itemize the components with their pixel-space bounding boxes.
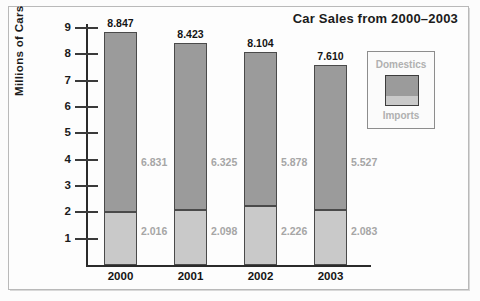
bar-total-label-2002: 8.104 [231, 37, 290, 49]
x-category-label-2002: 2002 [234, 270, 287, 282]
y-tick-5 [75, 132, 98, 134]
legend-swatch-domestics [386, 76, 418, 97]
y-tick-label-5: 5 [55, 127, 71, 139]
y-tick-label-9: 9 [55, 22, 71, 34]
legend-label-domestics: Domestics [368, 59, 434, 70]
x-category-label-2001: 2001 [164, 270, 217, 282]
y-tick-label-7: 7 [55, 75, 71, 87]
plot-area: 123456789 8.8476.8312.01620008.4236.3252… [0, 0, 480, 301]
segment-value-imports-2001: 2.098 [211, 225, 237, 237]
y-tick-label-8: 8 [55, 48, 71, 60]
y-tick-label-3: 3 [55, 180, 71, 192]
segment-value-domestics-2001: 6.325 [211, 156, 237, 168]
bar-segment-imports-2000 [104, 212, 137, 265]
bar-segment-domestics-2000 [104, 32, 137, 212]
y-tick-label-4: 4 [55, 154, 71, 166]
bar-segment-imports-2001 [174, 210, 207, 265]
legend-swatch-imports [386, 96, 418, 105]
x-category-label-2003: 2003 [304, 270, 357, 282]
y-tick-8 [75, 53, 98, 55]
legend-swatch [385, 75, 419, 106]
y-tick-label-6: 6 [55, 101, 71, 113]
bar-total-label-2001: 8.423 [161, 28, 220, 40]
chart-screenshot: Car Sales from 2000–2003 Millions of Car… [0, 0, 480, 301]
segment-value-imports-2000: 2.016 [141, 225, 167, 237]
bar-total-label-2000: 8.847 [91, 17, 150, 29]
y-tick-label-2: 2 [55, 206, 71, 218]
y-tick-4 [75, 159, 98, 161]
bar-segment-domestics-2002 [244, 52, 277, 207]
x-category-label-2000: 2000 [94, 270, 147, 282]
y-tick-2 [75, 211, 98, 213]
bar-segment-imports-2003 [314, 210, 347, 265]
bar-segment-domestics-2001 [174, 43, 207, 210]
x-axis-line [86, 265, 371, 267]
segment-value-domestics-2000: 6.831 [141, 156, 167, 168]
segment-value-domestics-2003: 5.527 [351, 156, 377, 168]
segment-value-imports-2003: 2.083 [351, 225, 377, 237]
y-tick-6 [75, 106, 98, 108]
y-tick-1 [75, 238, 98, 240]
bar-total-label-2003: 7.610 [301, 50, 360, 62]
y-tick-7 [75, 80, 98, 82]
bar-segment-domestics-2003 [314, 65, 347, 211]
y-tick-3 [75, 185, 98, 187]
y-tick-label-1: 1 [55, 233, 71, 245]
legend-label-imports: Imports [368, 110, 434, 121]
segment-value-domestics-2002: 5.878 [281, 156, 307, 168]
chart-legend: Domestics Imports [367, 51, 435, 129]
bar-segment-imports-2002 [244, 206, 277, 265]
segment-value-imports-2002: 2.226 [281, 225, 307, 237]
y-axis-line [86, 24, 88, 267]
